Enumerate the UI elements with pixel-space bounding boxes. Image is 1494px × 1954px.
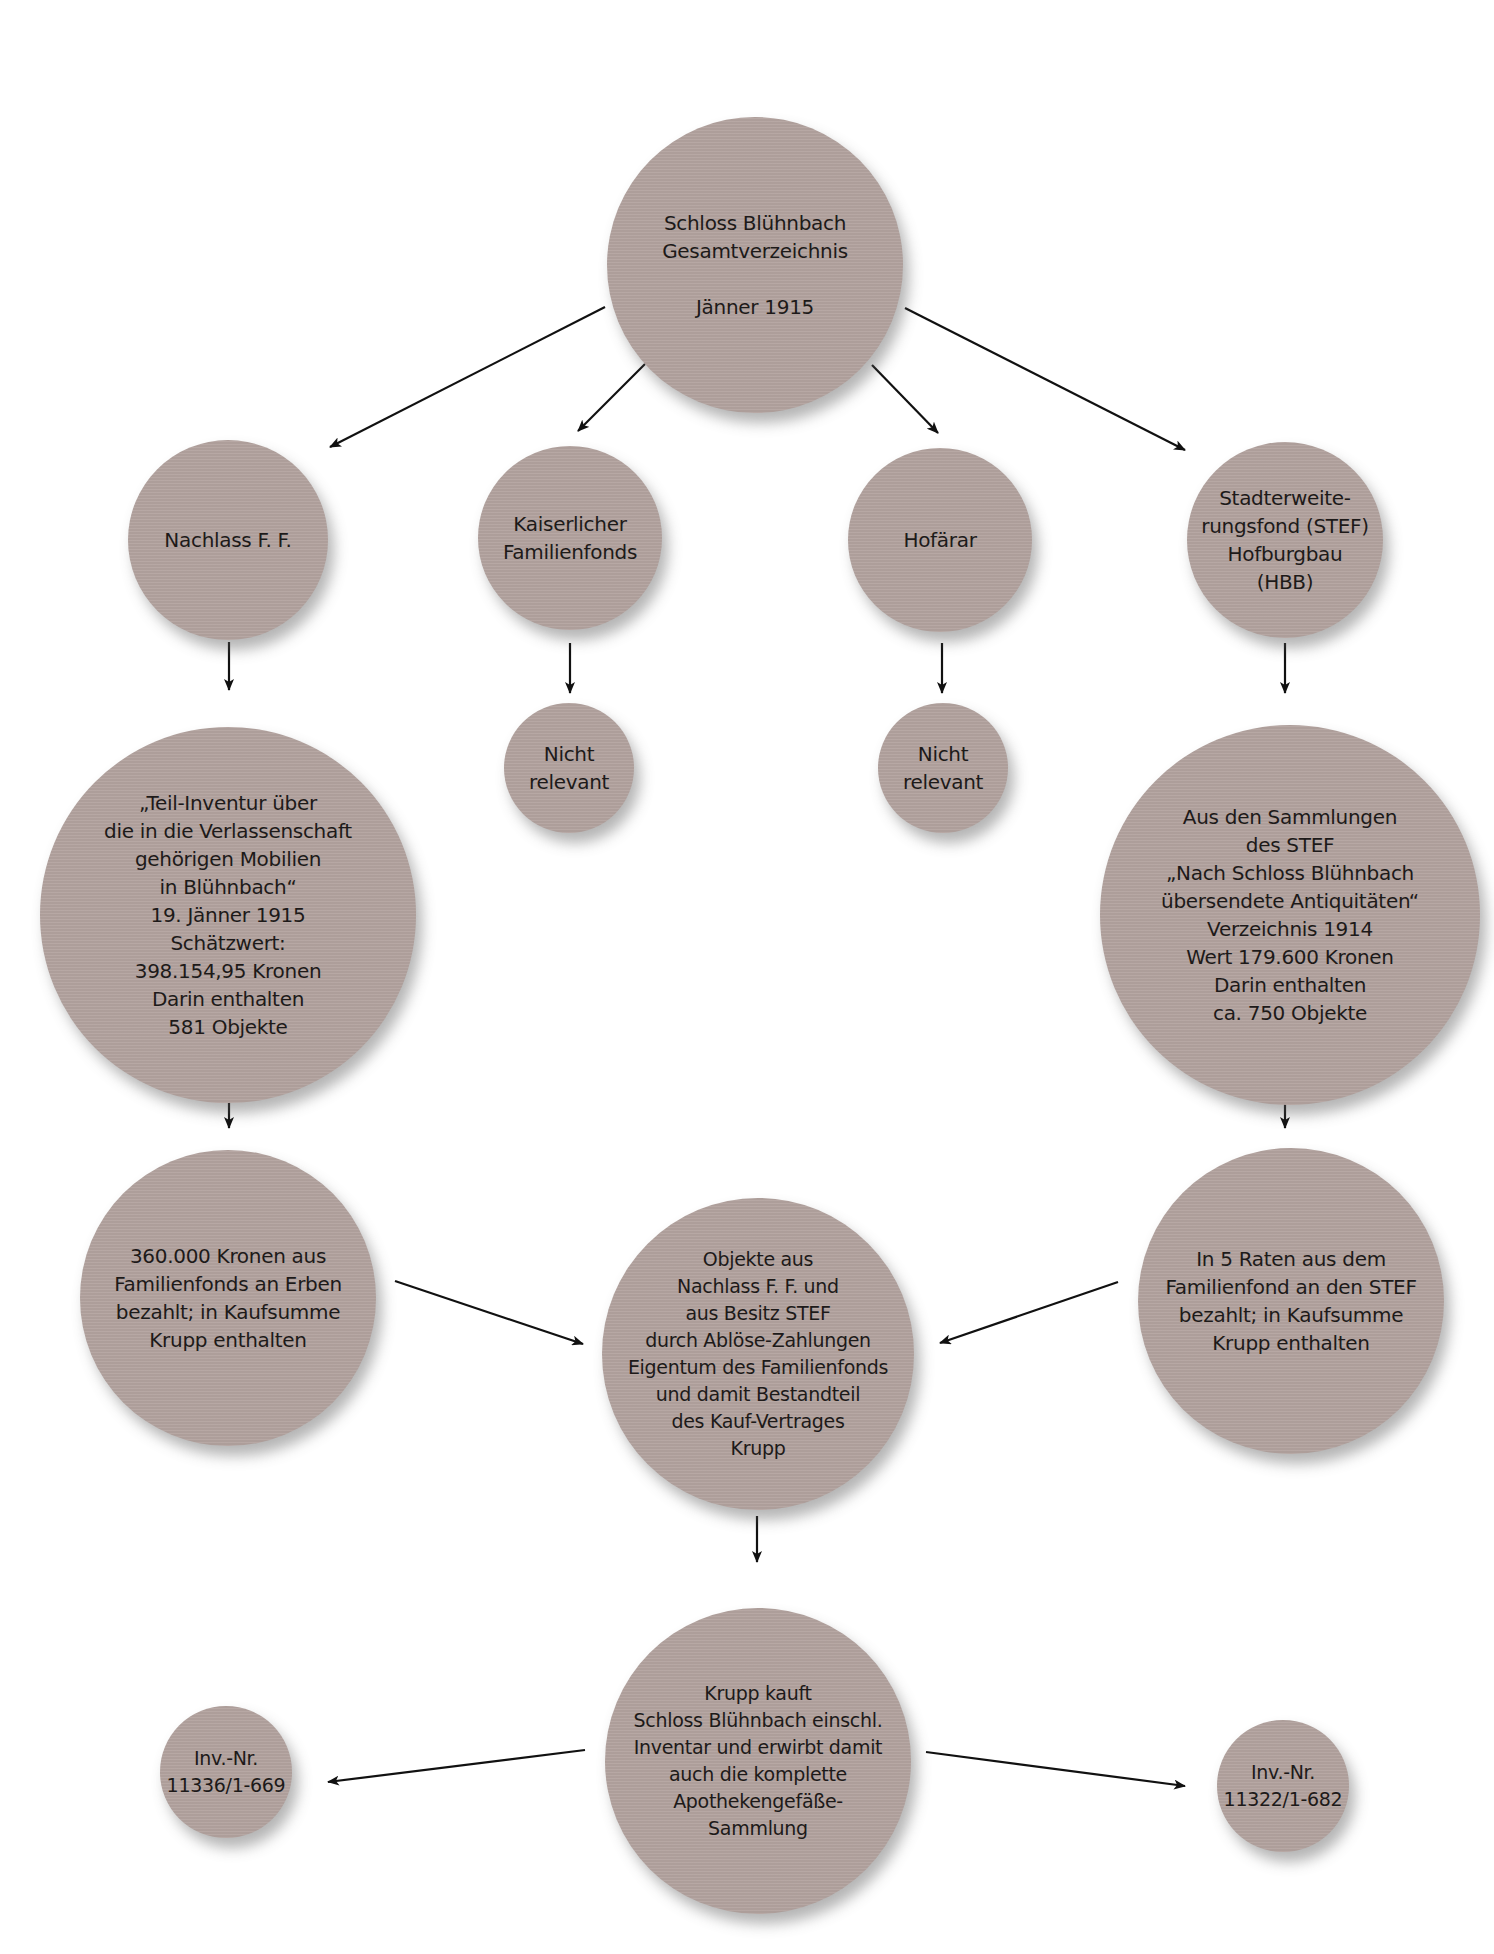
flow-diagram: Schloss Blühnbach Gesamtverzeichnis Jänn… bbox=[0, 0, 1494, 1954]
node-label: Inv.-Nr. 11336/1-669 bbox=[167, 1745, 286, 1799]
node-inv-left: Inv.-Nr. 11336/1-669 bbox=[160, 1706, 292, 1838]
node-stef: Stadterweite- rungsfond (STEF) Hofburgba… bbox=[1187, 442, 1383, 638]
node-stef-sammlungen: Aus den Sammlungen des STEF „Nach Schlos… bbox=[1100, 725, 1480, 1105]
node-krupp-kauf: Krupp kauft Schloss Blühnbach einschl. I… bbox=[605, 1608, 911, 1914]
node-label: Objekte aus Nachlass F. F. und aus Besit… bbox=[628, 1246, 888, 1462]
arrow-krupp-to-inv-right bbox=[926, 1752, 1185, 1786]
node-label: 360.000 Kronen aus Familienfonds an Erbe… bbox=[114, 1242, 342, 1354]
node-nicht-relevant-1: Nicht relevant bbox=[504, 703, 634, 833]
node-label: Stadterweite- rungsfond (STEF) Hofburgba… bbox=[1201, 484, 1369, 596]
arrow-root-to-familienfonds bbox=[578, 364, 645, 431]
node-hofaerar: Hofärar bbox=[848, 448, 1032, 632]
node-nicht-relevant-2: Nicht relevant bbox=[878, 703, 1008, 833]
node-teil-inventur: „Teil-Inventur über die in die Verlassen… bbox=[40, 727, 416, 1103]
arrow-root-to-hofaerar bbox=[872, 365, 938, 433]
arrow-krupp-to-inv-left bbox=[328, 1750, 585, 1782]
node-label: „Teil-Inventur über die in die Verlassen… bbox=[104, 789, 352, 1041]
node-label: Hofärar bbox=[903, 526, 976, 554]
node-nachlass: Nachlass F. F. bbox=[128, 440, 328, 640]
node-familienfonds: Kaiserlicher Familienfonds bbox=[478, 446, 662, 630]
node-label: Nicht relevant bbox=[529, 740, 609, 796]
node-zahlung-stef: In 5 Raten aus dem Familienfond an den S… bbox=[1138, 1148, 1444, 1454]
arrow-zahlung-stef-to-eigentum bbox=[940, 1282, 1118, 1343]
node-label: In 5 Raten aus dem Familienfond an den S… bbox=[1165, 1245, 1416, 1357]
arrow-root-to-nachlass bbox=[330, 307, 605, 447]
arrow-zahlung-erben-to-eigentum bbox=[395, 1281, 583, 1344]
node-inv-right: Inv.-Nr. 11322/1-682 bbox=[1217, 1720, 1349, 1852]
node-label: Nicht relevant bbox=[903, 740, 983, 796]
node-label: Nachlass F. F. bbox=[164, 526, 291, 554]
node-label: Kaiserlicher Familienfonds bbox=[503, 510, 637, 566]
node-root-gesamtverzeichnis: Schloss Blühnbach Gesamtverzeichnis Jänn… bbox=[607, 117, 903, 413]
node-eigentum-familienfonds: Objekte aus Nachlass F. F. und aus Besit… bbox=[602, 1198, 914, 1510]
node-label: Krupp kauft Schloss Blühnbach einschl. I… bbox=[634, 1680, 883, 1842]
node-label: Inv.-Nr. 11322/1-682 bbox=[1224, 1759, 1343, 1813]
node-label: Aus den Sammlungen des STEF „Nach Schlos… bbox=[1161, 803, 1419, 1027]
node-zahlung-erben: 360.000 Kronen aus Familienfonds an Erbe… bbox=[80, 1150, 376, 1446]
node-label: Schloss Blühnbach Gesamtverzeichnis Jänn… bbox=[662, 209, 848, 321]
arrow-root-to-stef bbox=[905, 308, 1185, 450]
